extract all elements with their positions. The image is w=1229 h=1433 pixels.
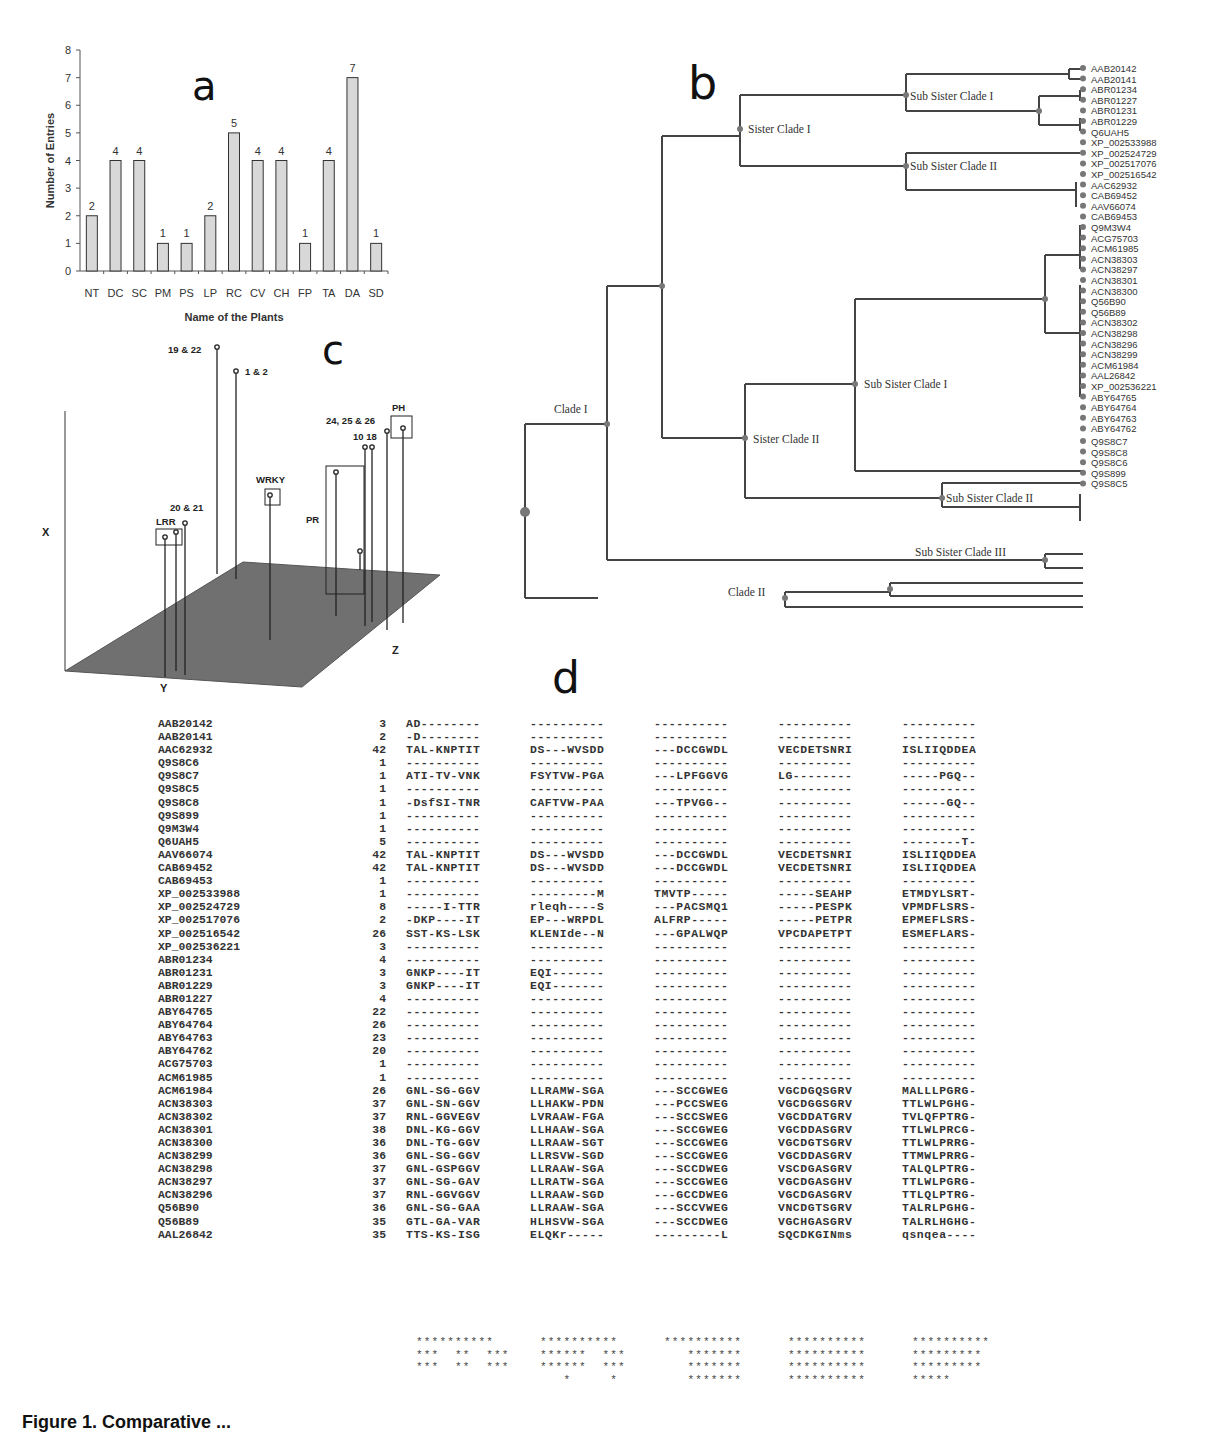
sequence-block: ---------- bbox=[654, 731, 778, 744]
label-10-18: 10 18 bbox=[353, 431, 377, 442]
leaf-label: CAB69452 bbox=[1091, 190, 1137, 201]
consensus-block: ********* bbox=[912, 1349, 1036, 1362]
axis-label-x: X bbox=[42, 526, 50, 538]
sequence-block: TTLWLPRCG- bbox=[902, 1124, 1026, 1137]
alignment-row: XP_00251654226SST-KS-LSKKLENIde--N---GPA… bbox=[158, 928, 1026, 941]
sequence-id: ABR01227 bbox=[158, 993, 346, 1006]
sequence-block: ---------- bbox=[778, 1019, 902, 1032]
sequence-block: ---------- bbox=[902, 1032, 1026, 1045]
sequence-block: ---------- bbox=[530, 1019, 654, 1032]
sequence-id: ACN38296 bbox=[158, 1189, 346, 1202]
panel-label-d: d bbox=[552, 656, 580, 700]
start-position: 35 bbox=[346, 1229, 386, 1242]
sequence-block: ---------M bbox=[530, 888, 654, 901]
sequence-block: VGCDGQSGRV bbox=[778, 1085, 902, 1098]
leaf-label: Q9S899 bbox=[1091, 468, 1126, 479]
sequence-block: ---------- bbox=[902, 1045, 1026, 1058]
bar-chart: 0123456782NT4DC4SC1PM1PS2LP5RC4CV4CH1FP4… bbox=[0, 0, 420, 330]
clade-label-sister-clade-2: Sister Clade II bbox=[753, 433, 820, 445]
sequence-id: XP_002517076 bbox=[158, 914, 346, 927]
sequence-block: TAL-KNPTIT bbox=[406, 744, 530, 757]
bar-DC bbox=[110, 161, 121, 272]
leaf-label: ACN38298 bbox=[1091, 328, 1137, 339]
consensus-block: *** ** *** bbox=[416, 1349, 540, 1362]
consensus-block: ******* bbox=[664, 1361, 788, 1374]
bar-DA bbox=[347, 78, 358, 271]
sequence-block: FSYTVW-PGA bbox=[530, 770, 654, 783]
sequence-block: DNL-TG-GGV bbox=[406, 1137, 530, 1150]
sequence-block: ---------- bbox=[654, 783, 778, 796]
bar-value-label: 4 bbox=[326, 145, 332, 157]
alignment-row: Q9S8C51---------------------------------… bbox=[158, 783, 1026, 796]
leaf-label: XP_002524729 bbox=[1091, 148, 1157, 159]
sequence-block: ---SCCDWEG bbox=[654, 1216, 778, 1229]
start-position: 1 bbox=[346, 888, 386, 901]
consensus-block: ********** bbox=[416, 1336, 540, 1349]
leaf-label: ACN38296 bbox=[1091, 339, 1137, 350]
sequence-block: ---------- bbox=[406, 783, 530, 796]
alignment-row: ABY6476426------------------------------… bbox=[158, 1019, 1026, 1032]
start-position: 1 bbox=[346, 823, 386, 836]
sequence-block: RNL-GGVGGV bbox=[406, 1189, 530, 1202]
x-axis-title: Name of the Plants bbox=[184, 311, 283, 323]
y-tick-label: 4 bbox=[65, 155, 71, 167]
bar-value-label: 1 bbox=[184, 227, 190, 239]
bar-SD bbox=[371, 243, 382, 271]
sequence-block: ---------- bbox=[902, 980, 1026, 993]
sequence-block: DS---WVSDD bbox=[530, 744, 654, 757]
leaf-label: ACN38301 bbox=[1091, 275, 1137, 286]
sequence-id: Q9M3W4 bbox=[158, 823, 346, 836]
sequence-block: TTMWLPRRG- bbox=[902, 1150, 1026, 1163]
sequence-block: ---PACSMQ1 bbox=[654, 901, 778, 914]
sequence-block: CAFTVW-PAA bbox=[530, 797, 654, 810]
leaf-label: AAB20142 bbox=[1091, 63, 1136, 74]
alignment-row: Q9M3W41---------------------------------… bbox=[158, 823, 1026, 836]
sequence-block: ESMEFLARS- bbox=[902, 928, 1026, 941]
alignment-row: CAB694531-------------------------------… bbox=[158, 875, 1026, 888]
sequence-id: ACN38302 bbox=[158, 1111, 346, 1124]
start-position: 42 bbox=[346, 862, 386, 875]
sequence-block: --------T- bbox=[902, 836, 1026, 849]
alignment-row: ACN3830237RNL-GGVEGVLVRAAW-FGA---SCCSWEG… bbox=[158, 1111, 1026, 1124]
start-position: 1 bbox=[346, 875, 386, 888]
sequence-block: LLRAMW-SGA bbox=[530, 1085, 654, 1098]
sequence-block: SQCDKGINms bbox=[778, 1229, 902, 1242]
x-tick-label: PM bbox=[155, 287, 172, 299]
x-tick-label: CV bbox=[250, 287, 266, 299]
sequence-block: SST-KS-LSK bbox=[406, 928, 530, 941]
leaf-label: Q9S8C8 bbox=[1091, 447, 1127, 458]
alignment-row: ABR012274-------------------------------… bbox=[158, 993, 1026, 1006]
start-position: 4 bbox=[346, 954, 386, 967]
start-position: 1 bbox=[346, 783, 386, 796]
sequence-id: ACN38298 bbox=[158, 1163, 346, 1176]
sequence-id: ACN38301 bbox=[158, 1124, 346, 1137]
x-tick-label: RC bbox=[226, 287, 242, 299]
leaf-label: Q9S8C5 bbox=[1091, 478, 1127, 489]
leaf-label: ACN38297 bbox=[1091, 264, 1137, 275]
alignment-row: XP_0025247298-----I-TTRrleqh----S---PACS… bbox=[158, 901, 1026, 914]
bar-value-label: 5 bbox=[231, 117, 237, 129]
consensus-block: ******* bbox=[664, 1349, 788, 1362]
consensus-block: ********** bbox=[788, 1349, 912, 1362]
label-19-22: 19 & 22 bbox=[168, 344, 201, 355]
consensus-block: *** ** *** bbox=[416, 1361, 540, 1374]
consensus-block: ********* bbox=[912, 1361, 1036, 1374]
sequence-id: ACN38297 bbox=[158, 1176, 346, 1189]
sequence-id: ABY64764 bbox=[158, 1019, 346, 1032]
sequence-block: ---------- bbox=[902, 967, 1026, 980]
sequence-block: -----PGQ-- bbox=[902, 770, 1026, 783]
x-tick-label: SC bbox=[132, 287, 147, 299]
clade-label-sub-sister-clade-3: Sub Sister Clade III bbox=[915, 546, 1006, 558]
consensus-block: ****** *** bbox=[540, 1349, 664, 1362]
alignment-row: AAB201423AD-----------------------------… bbox=[158, 718, 1026, 731]
sequence-block: LLRSVW-SGD bbox=[530, 1150, 654, 1163]
start-position: 20 bbox=[346, 1045, 386, 1058]
y-tick-label: 7 bbox=[65, 72, 71, 84]
sequence-block: LLHAAW-SGA bbox=[530, 1124, 654, 1137]
alignment-row: Q9S8C81-DsfSI-TNRCAFTVW-PAA---TPVGG-----… bbox=[158, 797, 1026, 810]
sequence-block: ---DCCGWDL bbox=[654, 849, 778, 862]
sequence-block: ---------- bbox=[778, 810, 902, 823]
start-position: 42 bbox=[346, 849, 386, 862]
sequence-block: ---------- bbox=[902, 810, 1026, 823]
x-tick-label: NT bbox=[85, 287, 100, 299]
